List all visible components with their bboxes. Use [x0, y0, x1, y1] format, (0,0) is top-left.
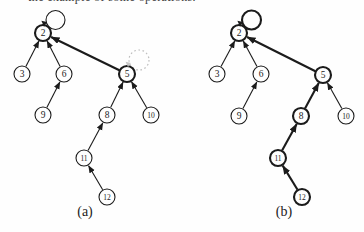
node-label-3: 3: [215, 69, 220, 79]
node-12-a: 12: [99, 189, 115, 205]
edge-9-to-6-b: [243, 82, 257, 108]
edge-3-to-2-a: [26, 41, 39, 66]
diagram-a: 236598101112: [14, 11, 159, 206]
graph-canvas: 236598101112236598101112: [0, 0, 364, 232]
node-label-5: 5: [321, 70, 326, 80]
node-label-10: 10: [147, 111, 155, 120]
node-10-b: 10: [338, 108, 354, 124]
node-8-b: 8: [293, 108, 309, 124]
node-label-8: 8: [299, 111, 304, 121]
caption-b: (b): [276, 204, 292, 220]
node-2-a: 2: [35, 25, 51, 41]
node-label-2: 2: [41, 28, 46, 38]
node-3-a: 3: [14, 66, 30, 82]
node-label-9: 9: [41, 110, 46, 120]
edge-10-to-5-a: [132, 82, 147, 108]
node-8-a: 8: [99, 107, 115, 123]
figure-stage: the example of some operations. 23659810…: [0, 0, 364, 232]
edge-8-to-5-b: [305, 83, 319, 109]
node-11-a: 11: [76, 150, 92, 166]
edge-10-to-5-b: [327, 83, 341, 109]
node-12-b: 12: [294, 189, 310, 205]
node-label-8: 8: [105, 110, 110, 120]
node-10-a: 10: [143, 107, 159, 123]
edge-6-to-2-a: [47, 41, 60, 66]
node-label-11: 11: [80, 154, 87, 163]
node-6-a: 6: [56, 66, 72, 82]
node-label-9: 9: [237, 111, 242, 121]
node-label-6: 6: [62, 69, 67, 79]
diagram-b: 236598101112: [209, 11, 354, 206]
node-label-12: 12: [298, 193, 306, 202]
edge-3-to-2-b: [221, 41, 235, 67]
node-label-6: 6: [259, 69, 264, 79]
node-label-3: 3: [20, 69, 25, 79]
edge-5-to-2-a: [51, 37, 119, 70]
node-2-b: 2: [231, 25, 247, 41]
node-3-b: 3: [209, 66, 225, 82]
node-label-2: 2: [237, 28, 242, 38]
edge-9-to-6-a: [47, 82, 60, 107]
node-5-b: 5: [315, 67, 331, 83]
edge-6-to-2-b: [243, 41, 257, 67]
node-label-10: 10: [342, 112, 350, 121]
node-label-12: 12: [103, 193, 111, 202]
node-6-b: 6: [253, 66, 269, 82]
node-label-11: 11: [274, 154, 281, 163]
caption-a: (a): [77, 204, 93, 220]
edge-12-to-11-a: [89, 166, 103, 190]
edge-12-to-11-b: [283, 166, 298, 190]
node-5-a: 5: [119, 66, 135, 82]
node-9-b: 9: [231, 108, 247, 124]
node-label-5: 5: [125, 69, 130, 79]
node-9-a: 9: [35, 107, 51, 123]
node-11-b: 11: [270, 150, 286, 166]
edge-11-to-8-a: [88, 123, 103, 151]
edge-8-to-5-a: [111, 82, 123, 107]
edge-11-to-8-b: [282, 124, 297, 151]
